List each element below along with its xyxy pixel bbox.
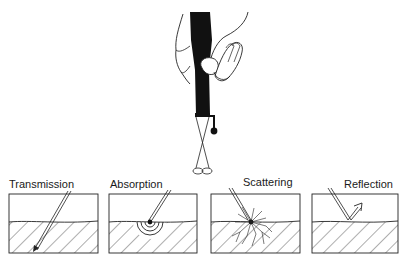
panel-transmission [9,191,98,253]
label-absorption: Absorption [110,178,163,190]
panel-scattering [211,188,300,253]
label-scattering: Scattering [243,176,293,188]
label-reflection: Reflection [344,178,393,190]
panel-absorption [109,190,197,253]
diagram-canvas [0,0,400,258]
label-transmission: Transmission [9,178,74,190]
laser-handpiece-icon [176,12,248,174]
panel-reflection [312,188,398,253]
